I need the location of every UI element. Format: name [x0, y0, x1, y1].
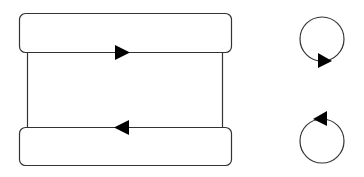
diagram-canvas	[0, 0, 364, 177]
top-box	[20, 14, 232, 53]
clockwise-arrowhead-icon	[318, 53, 332, 68]
counter-clockwise-arrowhead-icon	[313, 111, 327, 126]
loop-diagram-svg	[0, 0, 364, 177]
clockwise-rotation-icon	[300, 17, 344, 68]
counter-clockwise-rotation-icon	[300, 111, 344, 163]
